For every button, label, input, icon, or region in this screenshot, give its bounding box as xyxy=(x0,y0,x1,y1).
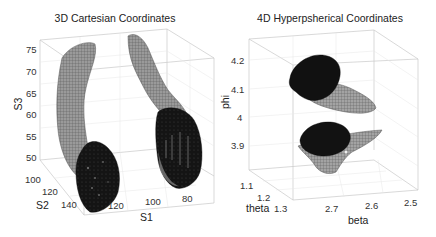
z-tick: 55 xyxy=(26,131,37,142)
x-tick: 120 xyxy=(108,200,124,211)
z-axis-label: S3 xyxy=(12,98,24,111)
x-tick: 2.6 xyxy=(365,200,378,211)
x-tick: 2.5 xyxy=(404,197,417,208)
x-tick: 80 xyxy=(182,193,193,204)
x-tick: 2.7 xyxy=(325,203,338,214)
z-tick: 4.2 xyxy=(231,55,244,66)
z-tick: 4 xyxy=(237,112,242,123)
y-tick: 100 xyxy=(25,174,41,185)
y-tick: 140 xyxy=(61,199,77,210)
z-axis-label: phi xyxy=(219,95,231,109)
z-tick: 3.9 xyxy=(231,140,244,151)
y-tick: 1.3 xyxy=(274,203,287,214)
y-axis-label: theta xyxy=(246,202,269,214)
z-tick: 50 xyxy=(26,152,37,163)
z-tick: 4.1 xyxy=(231,84,244,95)
x-tick: 100 xyxy=(145,196,161,207)
x-axis-label: beta xyxy=(348,214,368,226)
z-tick: 70 xyxy=(26,66,37,77)
y-tick: 120 xyxy=(42,186,58,197)
x-axis-label: S1 xyxy=(140,211,153,223)
z-tick: 75 xyxy=(26,44,37,55)
y-axis-label: S2 xyxy=(36,199,49,211)
cartesian-chart-panel: 3D Cartesian Coordinates xyxy=(0,0,218,237)
z-tick: 65 xyxy=(26,88,37,99)
y-tick: 1.1 xyxy=(240,180,253,191)
z-tick: 60 xyxy=(26,109,37,120)
hyperspherical-chart-panel: 4D Hyperpsherical Coordinates xyxy=(218,0,436,237)
